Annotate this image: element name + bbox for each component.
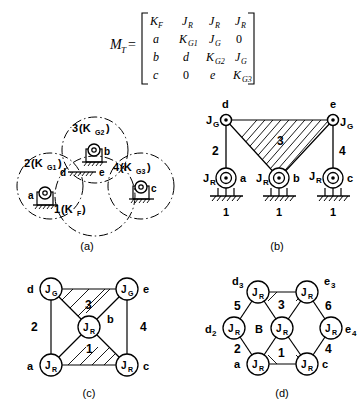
panel-d-graph: J R d 3 J R e 3 J R d 2 J R B xyxy=(0,0,363,414)
panel-d-node-e4-sub: R xyxy=(332,329,337,336)
panel-d-node-e3-base: J xyxy=(301,287,307,298)
panel-d-node-d3-outer-sub: 3 xyxy=(239,281,244,290)
panel-d-node-d2-outer-sub: 2 xyxy=(212,329,217,338)
panel-d-node-e4-base: J xyxy=(325,323,331,334)
panel-d-node-a-outer-label: a xyxy=(234,358,241,370)
panel-d-node-e4-outer-sub: 4 xyxy=(352,329,357,338)
panel-d-node-B-sub: R xyxy=(283,329,288,336)
panel-d-node-e3-outer-label: e xyxy=(324,275,330,287)
panel-d-node-a: J R a xyxy=(234,353,269,375)
panel-d-edge-label-5: 5 xyxy=(234,299,241,313)
panel-d-node-d2-outer-label: d xyxy=(205,323,212,335)
panel-d-node-e4: J R e 4 xyxy=(320,317,357,339)
panel-d-node-B: J R B xyxy=(255,317,293,339)
panel-d-node-B-outer-label: B xyxy=(255,323,263,335)
panel-d-edge-label-2: 2 xyxy=(234,342,241,356)
panel-d-node-c-sub: R xyxy=(308,365,313,372)
panel-d-node-e3-outer-sub: 3 xyxy=(331,281,336,290)
panel-d-node-d3-base: J xyxy=(252,287,258,298)
panel-d-node-a-base: J xyxy=(252,359,258,370)
panel-d-edge-label-4: 4 xyxy=(325,342,332,356)
figure-root: M T = K F J R J R J R a K G1 J G xyxy=(0,0,363,414)
panel-d-node-d2-base: J xyxy=(228,323,234,334)
panel-d-node-d3-sub: R xyxy=(259,293,264,300)
panel-d-node-e4-outer-label: e xyxy=(345,323,351,335)
panel-d-edge-label-1: 1 xyxy=(278,346,285,360)
panel-d-node-c: J R c xyxy=(296,353,328,375)
panel-d-node-a-sub: R xyxy=(259,365,264,372)
panel-d-node-B-base: J xyxy=(276,323,282,334)
panel-d-node-d3-outer-label: d xyxy=(232,275,239,287)
panel-d-node-c-base: J xyxy=(301,359,307,370)
panel-d-edge-label-3: 3 xyxy=(278,298,285,312)
panel-d-node-d2-sub: R xyxy=(235,329,240,336)
panel-d-node-d2: J R d 2 xyxy=(205,317,245,339)
panel-d-node-c-outer-label: c xyxy=(322,358,328,370)
panel-d-caption: (d) xyxy=(275,387,288,399)
panel-d-edge-label-6: 6 xyxy=(325,299,332,313)
panel-d-node-e3-sub: R xyxy=(308,293,313,300)
